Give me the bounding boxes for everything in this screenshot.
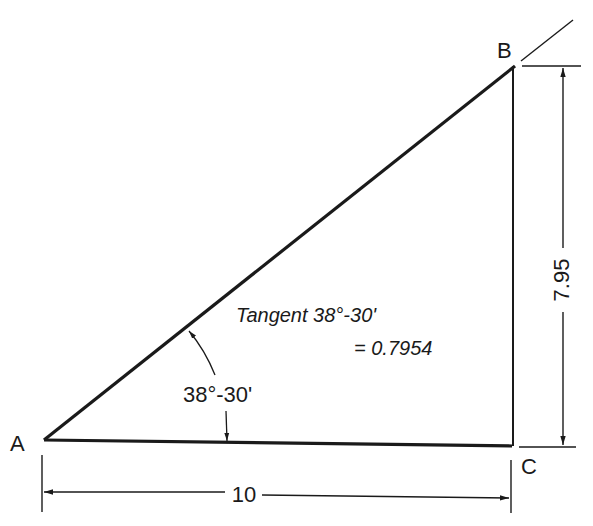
triangle [44,66,515,446]
horizontal-dimension: 10 [42,455,511,513]
tangent-annotation-line2: = 0.7954 [354,337,432,359]
hypotenuse-ab [44,66,515,440]
angle-indicator: 38°-30' [183,331,252,441]
horizontal-dimension-label: 10 [232,482,256,507]
angle-label: 38°-30' [183,382,252,407]
angle-arrow-lower [226,411,227,441]
vertex-label-a: A [10,431,25,456]
vertical-dimension-label: 7.95 [549,259,574,302]
extension-line-b [521,20,573,61]
vertex-label-c: C [521,454,537,479]
triangle-diagram: 7.95 10 38°-30' Tangent 38°-30' = 0.7954… [0,0,593,526]
tangent-annotation-line1: Tangent 38°-30' [236,304,377,326]
base-ac [44,440,512,446]
angle-arc-upper [189,331,215,375]
horizontal-dimension-line-right [262,495,509,498]
vertex-label-b: B [497,38,512,63]
tangent-annotation: Tangent 38°-30' = 0.7954 [236,304,432,359]
vertical-dimension: 7.95 [519,66,581,447]
